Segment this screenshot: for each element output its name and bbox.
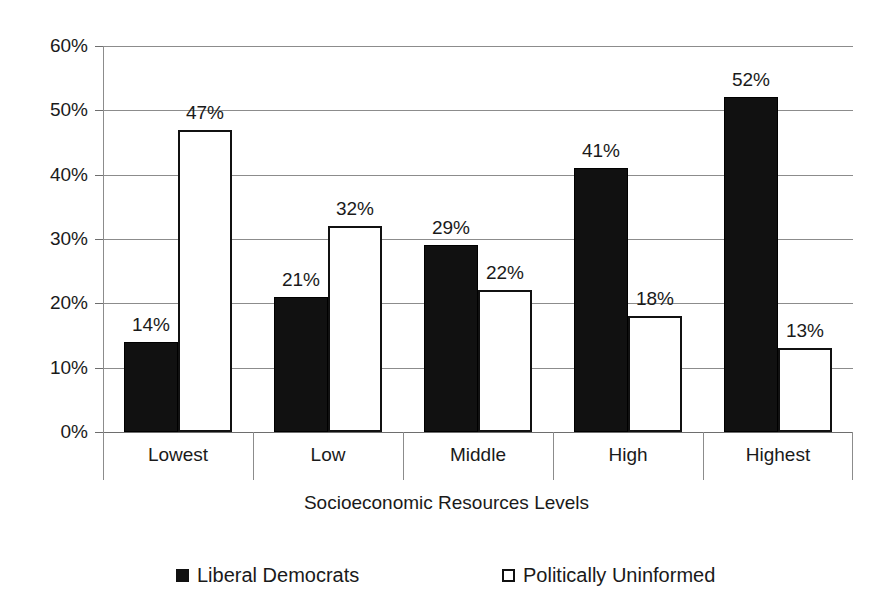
bar-value-label: 32% — [336, 198, 374, 220]
y-axis-tick-label: 60% — [0, 35, 88, 57]
y-axis-tick-label: 30% — [0, 228, 88, 250]
bar-low-series1 — [274, 297, 328, 432]
bar-value-label: 21% — [282, 269, 320, 291]
chart-legend: Liberal Democrats Politically Uninformed — [0, 560, 893, 593]
bar-lowest-series1 — [124, 342, 178, 432]
legend-swatch-light-icon — [502, 569, 515, 582]
y-axis-tick — [95, 239, 103, 240]
y-axis-tick — [95, 368, 103, 369]
bar-low-series2 — [328, 226, 382, 432]
category-divider — [253, 432, 254, 480]
bar-chart: 60%50%40%30%20%10%0% 14%47%21%32%29%22%4… — [0, 0, 893, 593]
bar-value-label: 13% — [786, 320, 824, 342]
bar-highest-series2 — [778, 348, 832, 432]
category-divider — [103, 432, 104, 480]
y-axis-tick — [95, 432, 103, 433]
y-axis-tick — [95, 303, 103, 304]
legend-item-politically-uninformed: Politically Uninformed — [502, 564, 715, 587]
y-axis-tick-label: 50% — [0, 99, 88, 121]
bar-highest-series1 — [724, 97, 778, 432]
category-label-lowest: Lowest — [148, 444, 208, 466]
bar-value-label: 14% — [132, 314, 170, 336]
y-axis-tick-label: 20% — [0, 292, 88, 314]
category-label-low: Low — [311, 444, 346, 466]
category-label-high: High — [608, 444, 647, 466]
category-divider — [703, 432, 704, 480]
bar-middle-series1 — [424, 245, 478, 432]
y-axis-tick-label: 10% — [0, 357, 88, 379]
legend-item-liberal-democrats: Liberal Democrats — [176, 564, 359, 587]
y-axis-tick-label: 40% — [0, 164, 88, 186]
bar-high-series1 — [574, 168, 628, 432]
bar-lowest-series2 — [178, 130, 232, 432]
gridline — [103, 46, 853, 47]
x-axis-title: Socioeconomic Resources Levels — [0, 492, 893, 514]
category-divider — [852, 432, 853, 480]
legend-swatch-dark-icon — [176, 569, 189, 582]
bar-value-label: 22% — [486, 262, 524, 284]
legend-label: Politically Uninformed — [523, 564, 715, 587]
legend-label: Liberal Democrats — [197, 564, 359, 587]
y-axis-tick-label: 0% — [0, 421, 88, 443]
bar-value-label: 52% — [732, 69, 770, 91]
bar-middle-series2 — [478, 290, 532, 432]
category-axis-band: LowestLowMiddleHighHighest — [103, 432, 853, 480]
bar-high-series2 — [628, 316, 682, 432]
bar-value-label: 29% — [432, 217, 470, 239]
bar-value-label: 47% — [186, 102, 224, 124]
category-label-middle: Middle — [450, 444, 506, 466]
category-divider — [553, 432, 554, 480]
category-label-highest: Highest — [746, 444, 810, 466]
bar-value-label: 41% — [582, 140, 620, 162]
bar-value-label: 18% — [636, 288, 674, 310]
y-axis-tick — [95, 175, 103, 176]
category-divider — [403, 432, 404, 480]
y-axis-tick — [95, 110, 103, 111]
y-axis-tick — [95, 46, 103, 47]
